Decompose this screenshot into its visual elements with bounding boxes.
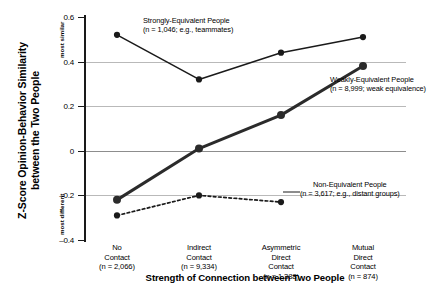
y-axis-title-line1: Z-Score Opinion-Behavior Similarity [16,11,29,251]
figure-panel: Z-Score Opinion-Behavior Similarity betw… [0,0,446,286]
y-axis-tick-label: 0 [44,146,74,155]
data-point-marker [113,196,121,204]
x-axis-tick-label-line: Indirect [152,243,246,253]
x-axis-tick-label-line: Direct [316,253,410,263]
x-axis-tick-label-line: Contact [70,253,164,263]
y-axis-title-line2: between the Two People [28,11,41,251]
y-axis-low-label: most different [58,194,65,235]
data-point-marker [277,111,285,119]
data-point-marker [114,32,120,38]
gridline [86,151,406,152]
annotation-weakly-equivalent-line2: (n = 8,999; weak equivalence) [330,84,426,93]
y-axis-tick-label: –0.2 [44,191,74,200]
y-axis-tick-mark [78,151,84,152]
y-axis-tick-mark [78,17,84,18]
x-axis-tick-label-line: No [70,243,164,253]
y-axis-high-label: most similar [58,22,65,58]
y-axis-tick-mark [78,106,84,107]
annotation-non-equivalent-line1: Non-Equivalent People [300,180,400,189]
y-axis-line [84,15,86,242]
annotation-strongly-equivalent-line2: (n = 1,046; e.g., teammates) [143,25,233,34]
annotation-strongly-equivalent: Strongly-Equivalent People (n = 1,046; e… [143,16,233,35]
series-1 [114,32,366,83]
x-axis-tick-label-line: Contact [316,262,410,272]
x-axis-title: Strength of Connection between Two Peopl… [60,272,430,283]
data-point-marker [114,212,120,218]
x-axis-tick-label-line: (n = 2,066) [70,262,164,272]
series-line [117,195,281,215]
series-line [117,35,363,80]
annotation-strongly-equivalent-line1: Strongly-Equivalent People [143,16,233,25]
x-axis-tick-label-line: Asymmetric [234,243,328,253]
annotation-weakly-equivalent: Weakly-Equivalent People (n = 8,999; wea… [330,75,426,94]
annotation-non-equivalent-line2: (n = 3,617; e.g., distant groups) [300,189,400,198]
x-axis-tick-label: NoContact(n = 2,066) [70,243,164,272]
x-axis-tick-label: IndirectContact(n = 9,334) [152,243,246,272]
x-axis-tick-label-line: Contact [234,262,328,272]
gridline [86,62,406,63]
y-axis-tick-mark [78,240,84,241]
x-axis-tick-label-line: Mutual [316,243,410,253]
y-axis-tick-label: 0.4 [44,57,74,66]
gridline [86,106,406,107]
annotation-weakly-equivalent-line1: Weakly-Equivalent People [330,75,426,84]
data-point-marker [359,62,367,70]
y-axis-tick-mark [78,62,84,63]
annotation-non-equivalent: Non-Equivalent People (n = 3,617; e.g., … [300,180,400,199]
y-axis-tick-label: 0.2 [44,102,74,111]
x-axis-tick-label-line: Direct [234,253,328,263]
y-axis-tick-mark [78,195,84,196]
x-axis-tick-label-line: Contact [152,253,246,263]
data-point-marker [196,76,202,82]
y-axis-tick-label: 0.6 [44,13,74,22]
data-point-marker [278,50,284,56]
x-axis-tick-label-line: (n = 9,334) [152,262,246,272]
data-point-marker [360,34,366,40]
data-point-marker [278,199,284,205]
y-axis-title: Z-Score Opinion-Behavior Similarity betw… [16,11,41,251]
